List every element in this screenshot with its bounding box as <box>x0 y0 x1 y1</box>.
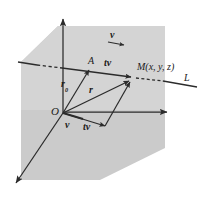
vector-line-diagram: O A M(x, y, z) L r0 r v tv v tv <box>0 0 210 202</box>
diagram-canvas <box>0 0 210 202</box>
label-line-l: L <box>184 73 190 83</box>
label-vector-tv-bottom: tv <box>83 122 90 132</box>
label-vector-r: r <box>89 85 93 95</box>
line-l-right-segment <box>163 81 197 87</box>
label-point-a: A <box>88 56 94 66</box>
label-vector-tv-top: tv <box>104 58 111 68</box>
label-vector-r0: r0 <box>61 79 68 91</box>
label-vector-v-top: v <box>110 30 114 40</box>
label-point-m: M(x, y, z) <box>137 62 174 72</box>
label-vector-r0-subscript: 0 <box>65 86 68 93</box>
label-vector-v-bottom: v <box>65 120 69 130</box>
label-origin: O <box>51 106 59 117</box>
